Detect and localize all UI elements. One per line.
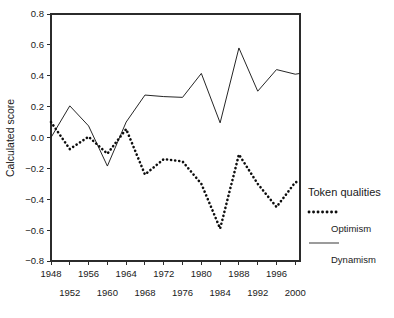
x-tick-label: 1956	[78, 268, 99, 279]
x-tick-label: 1960	[97, 287, 118, 298]
legend-label-optimism: Optimism	[331, 223, 371, 234]
x-tick-label: 1984	[210, 287, 231, 298]
x-tick-label: 1948	[40, 268, 61, 279]
plot-border	[51, 14, 300, 261]
y-tick-label: −0.6	[25, 225, 44, 236]
y-tick-label: 0.0	[31, 132, 44, 143]
legend-title: Token qualities	[308, 186, 381, 198]
y-tick-label: 0.8	[31, 8, 44, 19]
y-tick-label: −0.2	[25, 163, 44, 174]
x-tick-label: 1992	[247, 287, 268, 298]
chart-legend: Token qualities Optimism Dynamism	[308, 186, 381, 265]
x-tick-label: 1980	[191, 268, 212, 279]
series-line-dynamism	[51, 48, 300, 166]
y-axis: 0.80.60.40.20.0−0.2−0.4−0.6−0.8	[25, 8, 51, 266]
x-tick-label: 1972	[153, 268, 174, 279]
x-tick-label: 1952	[59, 287, 80, 298]
series-line-optimism	[51, 122, 300, 229]
x-tick-label: 1996	[266, 268, 287, 279]
x-tick-label: 1968	[134, 287, 155, 298]
legend-label-dynamism: Dynamism	[331, 254, 376, 265]
x-tick-label: 2000	[285, 287, 306, 298]
y-tick-label: 0.4	[31, 70, 44, 81]
x-tick-label: 1988	[228, 268, 249, 279]
line-chart: 0.80.60.40.20.0−0.2−0.4−0.6−0.8 19481952…	[0, 0, 394, 318]
x-tick-label: 1976	[172, 287, 193, 298]
x-tick-label: 1964	[116, 268, 137, 279]
figure-container: 0.80.60.40.20.0−0.2−0.4−0.6−0.8 19481952…	[0, 0, 394, 318]
x-axis: 1948195219561960196419681972197619801984…	[40, 261, 305, 298]
y-tick-label: 0.2	[31, 101, 44, 112]
y-tick-label: −0.8	[25, 255, 44, 266]
plot-frame	[51, 14, 300, 261]
y-axis-title: Calculated score	[4, 99, 16, 177]
y-tick-label: −0.4	[25, 194, 44, 205]
y-tick-label: 0.6	[31, 39, 44, 50]
data-series-layer	[51, 48, 300, 229]
